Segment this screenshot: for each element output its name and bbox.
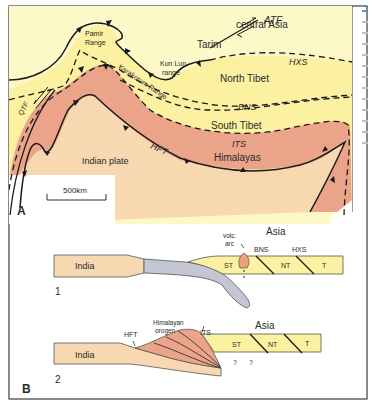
section1-volc-label-1: volc. <box>223 232 237 239</box>
section2-orogen-label-1: Himalayan <box>153 319 184 327</box>
section1-number: 1 <box>55 286 61 297</box>
section1-asia-label: Asia <box>266 226 286 237</box>
panel-b-label: B <box>22 382 31 396</box>
section1-nt-label: NT <box>281 262 291 269</box>
asia-plate-2 <box>202 334 321 352</box>
cross-section-1 <box>54 244 343 308</box>
volcanic-arc <box>239 253 249 268</box>
tibet-collision-figure: central Asia ATF Tarim Pamir Range Kun L… <box>0 0 378 405</box>
section2-unknown-2: ? <box>249 359 253 366</box>
label-pamir-1: Pamir <box>85 30 104 37</box>
section1-hxs-label: HXS <box>292 246 307 253</box>
label-tarim: Tarim <box>197 39 221 50</box>
panel-a-label: A <box>17 204 26 218</box>
label-hxs: HXS <box>289 57 308 67</box>
section2-st-label: ST <box>232 341 242 348</box>
label-kunlun-1: Kun Lun <box>160 60 186 67</box>
label-indian-plate: Indian plate <box>82 156 129 166</box>
section2-t-label: T <box>305 340 310 347</box>
label-kunlun-2: range <box>162 69 180 77</box>
label-bns: BNS <box>238 102 257 112</box>
panel-a-map <box>9 6 352 225</box>
india-slab-1 <box>54 255 144 277</box>
section2-orogen-label-2: orogen <box>155 327 176 335</box>
scale-bar-label: 500km <box>63 186 87 195</box>
section2-nt-label: NT <box>268 341 278 348</box>
section2-number: 2 <box>55 374 61 385</box>
section1-t-label: T <box>322 262 327 269</box>
label-himalayas: Himalayas <box>214 152 261 163</box>
label-atf: ATF <box>263 15 283 26</box>
label-pamir-2: Range <box>85 39 106 47</box>
section2-india-label: India <box>75 350 95 360</box>
section1-volc-label-2: arc <box>225 240 235 247</box>
section2-asia-label: Asia <box>255 320 275 331</box>
section2-unknown-1: ? <box>233 359 237 366</box>
section1-bns-label: BNS <box>254 246 269 253</box>
section2-hft-label: HFT <box>124 331 138 338</box>
section1-india-label: India <box>75 261 95 271</box>
cropped-caption-text <box>360 10 378 190</box>
label-north-tibet: North Tibet <box>220 73 269 84</box>
section2-its-label: ITS <box>200 329 211 336</box>
label-its: ITS <box>232 139 246 149</box>
label-south-tibet: South Tibet <box>211 120 262 131</box>
section1-st-label: ST <box>224 262 234 269</box>
